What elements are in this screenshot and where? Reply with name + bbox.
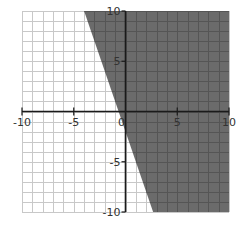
y-tick-label: -10: [103, 206, 121, 219]
x-tick-label: -5: [68, 116, 79, 129]
x-tick-label: 0: [118, 116, 125, 129]
y-tick-label: 10: [107, 5, 121, 18]
y-tick-label: -5: [110, 156, 121, 169]
x-tick-label: 10: [222, 116, 236, 129]
x-tick-label: 5: [174, 116, 181, 129]
inequality-graph: -10-50510105-5-10: [0, 0, 251, 227]
x-tick-label: -10: [13, 116, 31, 129]
y-tick-label: 5: [114, 55, 121, 68]
